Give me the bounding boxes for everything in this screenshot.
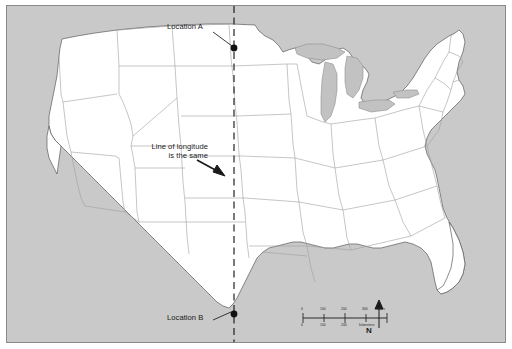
- location-a-label: Location A: [167, 22, 203, 31]
- scale-tick-km-100: 100: [320, 323, 326, 327]
- scale-tick-km-0: 0: [301, 323, 303, 327]
- longitude-annotation-label: Line of longitude is the same: [142, 142, 208, 161]
- location-b-label: Location B: [167, 313, 203, 322]
- map-screenshot: 0 100 200 300 miles 0 100 200 kilometers…: [0, 0, 512, 349]
- longitude-annotation-line1: Line of longitude: [142, 142, 208, 151]
- scale-tick-miles-300: 300: [362, 307, 368, 311]
- longitude-annotation-line2: is the same: [142, 151, 208, 160]
- scale-tick-miles-0: 0: [301, 307, 303, 311]
- location-a-marker: [231, 45, 238, 52]
- land-layer: [47, 24, 465, 308]
- scale-tick-km-200: 200: [341, 323, 347, 327]
- north-arrow: [375, 300, 383, 328]
- us-map-graphic: [7, 6, 506, 343]
- scale-tick-miles-100: 100: [320, 307, 326, 311]
- scale-bar: [303, 313, 387, 323]
- north-arrow-label: N: [366, 326, 372, 335]
- scale-tick-miles-200: 200: [341, 307, 347, 311]
- scale-unit-miles: miles: [377, 307, 385, 311]
- location-b-leader: [213, 312, 231, 320]
- location-b-marker: [231, 311, 238, 318]
- map-frame: 0 100 200 300 miles 0 100 200 kilometers: [6, 5, 506, 343]
- us-landmass: [49, 24, 465, 308]
